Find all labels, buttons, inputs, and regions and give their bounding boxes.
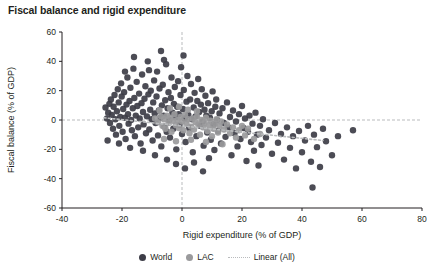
x-tick-label: -40 [56,214,69,224]
data-point [287,145,293,151]
data-point [195,76,201,82]
data-point [173,146,179,152]
x-tick-label: 80 [417,214,427,224]
data-point [200,168,206,174]
data-point [131,54,137,60]
data-point [162,126,168,132]
data-point [188,137,194,143]
data-point [219,105,225,111]
data-point [176,104,182,110]
data-point [320,126,326,132]
legend-item-lac: LAC [186,253,214,262]
data-point [309,184,315,190]
data-point [180,127,186,133]
data-point [168,74,174,80]
data-point [224,121,230,127]
data-point [234,143,240,149]
data-point [150,99,156,105]
data-point [219,141,225,147]
data-point [160,82,166,88]
data-point [269,151,275,157]
data-point [211,147,217,153]
data-point [311,131,317,137]
data-point [252,109,258,115]
data-point [146,67,152,73]
data-point [228,152,234,158]
data-point [180,52,186,58]
data-point [134,79,140,85]
data-point [122,136,128,142]
data-point [121,89,127,95]
data-point [350,127,356,133]
data-point [135,124,141,130]
data-point [199,86,205,92]
data-point [246,112,252,118]
x-tick-label: 60 [357,214,367,224]
data-point [255,162,261,168]
chart-title: Fiscal balance and rigid expenditure [8,4,186,16]
data-point [152,152,158,158]
data-point [305,123,311,129]
data-point [154,68,160,74]
data-point [110,126,116,132]
data-point [164,156,170,162]
y-tick-label: 60 [47,27,57,37]
data-point [167,134,173,140]
chart-plot-area: -60-40-200204060-40-20020406080Rigid exp… [0,18,434,253]
data-point [236,111,242,117]
data-point [161,57,167,63]
data-point [329,152,335,158]
legend-label-world: World [150,253,172,262]
data-point [173,138,179,144]
data-point [230,107,236,113]
legend-label-linear-all: Linear (All) [254,253,295,262]
data-point [168,129,174,135]
legend-item-linear-all: Linear (All) [228,253,295,262]
y-tick-label: 0 [51,115,56,125]
data-point [258,142,264,148]
data-point [178,64,184,70]
data-point [119,129,125,135]
lac-marker-icon [186,254,193,261]
data-point [129,127,135,133]
data-point [148,87,154,93]
data-point [173,161,179,167]
data-point [203,139,209,145]
data-point [212,104,218,110]
data-point [132,133,138,139]
data-point [281,156,287,162]
data-point [116,123,122,129]
data-point [111,92,117,98]
data-point [182,165,188,171]
data-point [293,165,299,171]
y-tick-label: -60 [44,203,57,213]
data-point [188,81,194,87]
data-point [314,144,320,150]
data-point [158,48,164,54]
y-tick-label: 40 [47,56,57,66]
data-point [149,137,155,143]
data-point [137,140,143,146]
legend-label-lac: LAC [197,253,214,262]
data-point [266,127,272,133]
series-world [102,48,356,191]
data-point [230,124,236,130]
x-tick-label: -20 [116,214,129,224]
data-point [158,143,164,149]
data-point [260,116,266,122]
data-point [140,148,146,154]
data-point [201,107,207,113]
x-tick-label: 40 [297,214,307,224]
data-point [249,120,255,126]
data-point [116,99,122,105]
data-point [184,73,190,79]
data-point [209,133,215,139]
data-point [233,118,239,124]
data-point [323,138,329,144]
data-point [299,149,305,155]
data-point [139,71,145,77]
data-point [191,90,197,96]
y-axis-title: Fiscal balance (% of GDP) [6,67,16,173]
data-point [125,111,131,117]
legend-item-world: World [139,253,172,262]
